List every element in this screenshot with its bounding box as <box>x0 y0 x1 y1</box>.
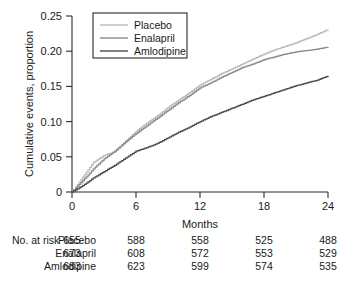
risk-value-cell: 572 <box>185 247 215 260</box>
x-tick-label: 24 <box>322 200 334 212</box>
risk-value-cell: 608 <box>121 247 151 260</box>
y-tick-label: 0.20 <box>41 45 62 57</box>
risk-value-cell: 488 <box>313 234 343 247</box>
risk-table-row: Placebo655588558525488 <box>0 234 349 247</box>
series-line-amlodipine <box>72 76 328 192</box>
risk-value-cell: 599 <box>185 260 215 273</box>
y-tick-label: 0.25 <box>41 10 62 22</box>
y-axis-tick-group: 00.050.100.150.200.25 <box>41 10 72 198</box>
number-at-risk-table: No. at risk Placebo655588558525488Enalap… <box>0 234 349 273</box>
y-tick-label: 0.10 <box>41 116 62 128</box>
risk-value-cell: 683 <box>57 260 87 273</box>
legend-label-enalapril: Enalapril <box>134 32 175 44</box>
cumulative-events-figure: 00.050.100.150.200.25 06121824 Cumulativ… <box>0 0 349 290</box>
y-tick-label: 0.15 <box>41 80 62 92</box>
risk-table-row: Amlodipine683623599574535 <box>0 260 349 273</box>
risk-value-cell: 558 <box>185 234 215 247</box>
x-tick-label: 6 <box>133 200 139 212</box>
legend-label-amlodipine: Amlodipine <box>134 45 186 57</box>
risk-value-cell: 535 <box>313 260 343 273</box>
risk-value-cell: 525 <box>249 234 279 247</box>
risk-table-rows: Placebo655588558525488Enalapril673608572… <box>0 234 349 273</box>
risk-value-cell: 673 <box>57 247 87 260</box>
series-line-enalapril <box>72 47 328 192</box>
line-chart-plot: 00.050.100.150.200.25 06121824 Cumulativ… <box>0 0 349 240</box>
x-tick-label: 18 <box>258 200 270 212</box>
risk-table-row: Enalapril673608572553529 <box>0 247 349 260</box>
chart-legend: PlaceboEnalaprilAmlodipine <box>93 13 187 58</box>
risk-value-cell: 623 <box>121 260 151 273</box>
risk-value-cell: 574 <box>249 260 279 273</box>
y-tick-label: 0.05 <box>41 151 62 163</box>
x-tick-label: 0 <box>69 200 75 212</box>
risk-value-cell: 655 <box>57 234 87 247</box>
y-axis-title: Cumulative events, proportion <box>23 31 35 177</box>
x-axis-title: Months <box>182 218 219 230</box>
x-tick-label: 12 <box>194 200 206 212</box>
risk-value-cell: 529 <box>313 247 343 260</box>
y-tick-label: 0 <box>56 186 62 198</box>
x-axis-tick-group: 06121824 <box>69 192 334 212</box>
risk-value-cell: 588 <box>121 234 151 247</box>
legend-label-placebo: Placebo <box>134 19 172 31</box>
risk-value-cell: 553 <box>249 247 279 260</box>
